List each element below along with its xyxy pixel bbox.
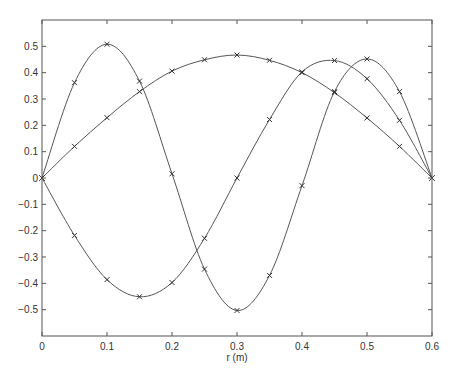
y-tick-label: 0.3 [24, 94, 38, 105]
x-tick-label: 0.4 [295, 341, 309, 352]
y-tick-label: 0.1 [24, 146, 38, 157]
x-marker-icon [170, 69, 175, 74]
x-marker-icon [300, 183, 305, 188]
x-axis-ticks: 00.10.20.30.40.50.6 [39, 20, 439, 352]
x-tick-label: 0.2 [165, 341, 179, 352]
x-marker-icon [397, 89, 402, 94]
x-tick-label: 0.5 [360, 341, 374, 352]
x-marker-icon [170, 280, 175, 285]
x-axis-label: r (m) [226, 352, 247, 363]
chart: 00.10.20.30.40.50.6 −0.5−0.4−0.3−0.2−0.1… [0, 0, 464, 376]
series-line-1 [42, 55, 432, 178]
x-marker-icon [300, 70, 305, 75]
y-tick-label: −0.4 [18, 278, 38, 289]
x-marker-icon [397, 118, 402, 123]
x-marker-icon [267, 273, 272, 278]
y-tick-label: 0.4 [24, 67, 38, 78]
y-tick-label: 0.2 [24, 120, 38, 131]
markers-layer [40, 42, 435, 313]
x-marker-icon [365, 76, 370, 81]
x-marker-icon [235, 176, 240, 181]
y-tick-label: −0.5 [18, 304, 38, 315]
x-marker-icon [105, 277, 110, 282]
x-marker-icon [267, 117, 272, 122]
x-marker-icon [365, 115, 370, 120]
x-marker-icon [202, 236, 207, 241]
y-tick-label: 0 [32, 173, 38, 184]
x-marker-icon [72, 233, 77, 238]
x-tick-label: 0.1 [100, 341, 114, 352]
x-marker-icon [170, 171, 175, 176]
x-tick-label: 0 [39, 341, 45, 352]
y-tick-label: 0.5 [24, 41, 38, 52]
x-marker-icon [137, 79, 142, 84]
x-marker-icon [72, 144, 77, 149]
y-tick-label: −0.1 [18, 199, 38, 210]
x-marker-icon [397, 144, 402, 149]
x-marker-icon [72, 80, 77, 85]
x-marker-icon [105, 115, 110, 120]
x-tick-label: 0.6 [425, 341, 439, 352]
x-tick-label: 0.3 [230, 341, 244, 352]
x-marker-icon [137, 89, 142, 94]
x-marker-icon [202, 267, 207, 272]
y-tick-label: −0.2 [18, 225, 38, 236]
y-tick-label: −0.3 [18, 252, 38, 263]
